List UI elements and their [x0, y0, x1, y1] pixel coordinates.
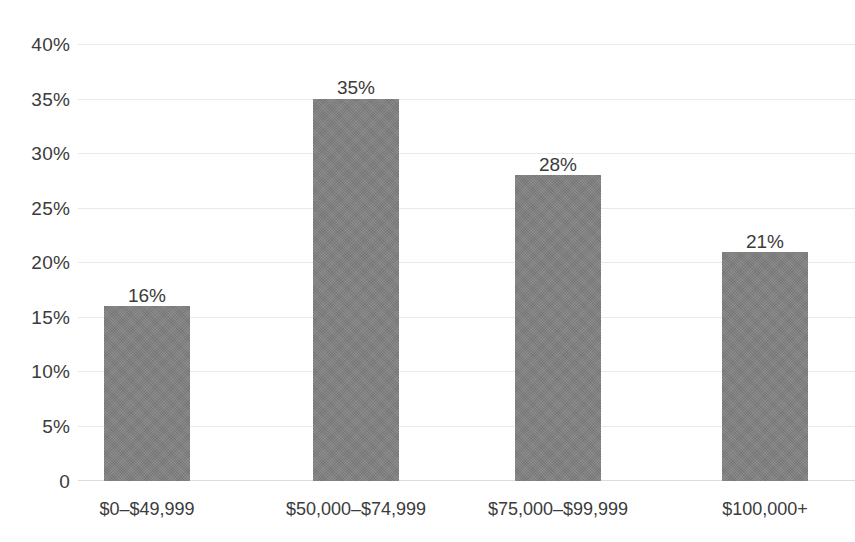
bar-value-label: 21% — [705, 232, 825, 251]
x-axis-tick-label: $75,000–$99,999 — [453, 500, 663, 518]
y-axis-tick-label: 10% — [0, 362, 70, 381]
y-axis-tick-label: 20% — [0, 253, 70, 272]
x-axis-tick-label: $50,000–$74,999 — [251, 500, 461, 518]
y-axis-tick-label: 5% — [0, 416, 70, 435]
y-axis-tick-label: 25% — [0, 198, 70, 217]
bar — [104, 306, 190, 481]
bar-chart: 40% 35% 30% 25% 20% 15% 10% 5% 0 16% 35%… — [0, 0, 855, 542]
y-axis-tick-label: 40% — [0, 35, 70, 54]
bar — [515, 175, 601, 481]
x-axis-tick-label: $100,000+ — [660, 500, 855, 518]
y-axis-tick-label: 15% — [0, 307, 70, 326]
gridline — [78, 208, 855, 209]
bar-value-label: 16% — [87, 286, 207, 305]
bar — [722, 252, 808, 481]
x-axis-tick-label: $0–$49,999 — [42, 500, 252, 518]
bar — [313, 99, 399, 481]
gridline — [78, 153, 855, 154]
gridline — [78, 99, 855, 100]
y-axis-tick-label: 30% — [0, 144, 70, 163]
chart-title-cropped — [0, 0, 855, 6]
plot-area — [78, 44, 855, 481]
y-axis-tick-label: 0 — [0, 472, 70, 491]
y-axis-tick-label: 35% — [0, 89, 70, 108]
bar-value-label: 28% — [498, 155, 618, 174]
gridline — [78, 44, 855, 45]
bar-value-label: 35% — [296, 78, 416, 97]
